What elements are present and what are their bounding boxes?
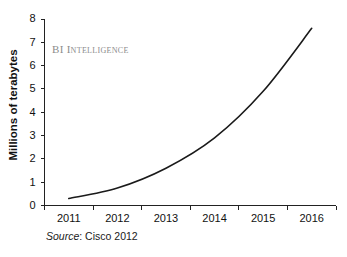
source-note: Source: Cisco 2012 bbox=[46, 230, 138, 242]
y-tick-label: 4 bbox=[29, 106, 35, 118]
x-tick-label: 2013 bbox=[154, 212, 178, 224]
y-tick-label: 1 bbox=[29, 176, 35, 188]
y-tick-label: 3 bbox=[29, 129, 35, 141]
y-axis-tick-labels: 012345678 bbox=[29, 12, 35, 211]
x-tick-label: 2014 bbox=[202, 212, 226, 224]
y-tick-label: 8 bbox=[29, 12, 35, 24]
y-tick-label: 6 bbox=[29, 59, 35, 71]
y-tick-label: 7 bbox=[29, 36, 35, 48]
source-note-label: Source bbox=[46, 230, 79, 242]
chart-container: 012345678 201120122013201420152016 Milli… bbox=[0, 0, 347, 257]
source-note-value: : Cisco 2012 bbox=[79, 230, 137, 242]
x-axis-ticks bbox=[45, 206, 337, 211]
y-axis-ticks bbox=[41, 19, 45, 206]
watermark-label: BI Intelligence bbox=[52, 43, 129, 55]
x-tick-label: 2015 bbox=[251, 212, 275, 224]
y-tick-label: 5 bbox=[29, 82, 35, 94]
x-tick-label: 2011 bbox=[57, 212, 81, 224]
y-tick-label: 0 bbox=[29, 199, 35, 211]
x-tick-label: 2016 bbox=[299, 212, 323, 224]
x-tick-label: 2012 bbox=[105, 212, 129, 224]
x-axis-tick-labels: 201120122013201420152016 bbox=[57, 212, 324, 224]
y-tick-label: 2 bbox=[29, 152, 35, 164]
line-chart-plot: 012345678 201120122013201420152016 bbox=[0, 0, 347, 257]
